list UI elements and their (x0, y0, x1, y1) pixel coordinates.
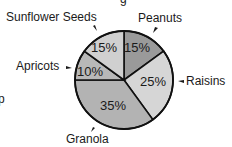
label-sunflower-seeds: Sunflower Seeds (6, 10, 97, 24)
partial-glyph-top: g (120, 0, 127, 6)
label-raisins: Raisins (186, 74, 225, 88)
label-granola: Granola (66, 132, 109, 146)
pie-chart: 15% 15% 10% 25% 35% Sunflower Seeds Pean… (0, 0, 232, 147)
arrow-sunflower-icon (93, 25, 97, 31)
label-peanuts: Peanuts (138, 11, 182, 25)
partial-glyph-left: p (0, 92, 5, 106)
pct-apricots: 10% (77, 64, 103, 79)
pct-raisins: 25% (140, 74, 166, 89)
label-apricots: Apricots (16, 59, 59, 73)
arrow-raisins-icon (178, 80, 184, 83)
arrow-peanuts-icon (153, 27, 158, 33)
arrow-apricots-icon (66, 66, 72, 69)
pct-peanuts: 15% (124, 40, 150, 55)
pct-granola: 35% (100, 98, 126, 113)
pct-sunflower: 15% (91, 40, 117, 55)
